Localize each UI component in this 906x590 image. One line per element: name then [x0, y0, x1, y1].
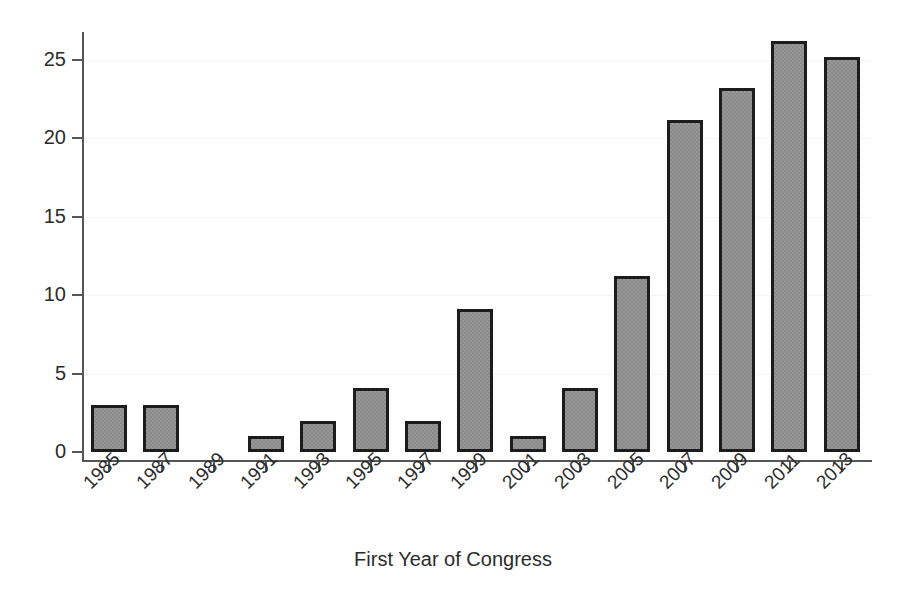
bar[interactable] [143, 405, 179, 452]
bar-slot [345, 60, 397, 452]
y-axis-tick [72, 137, 83, 139]
y-axis-tick [72, 59, 83, 61]
bar[interactable] [719, 88, 755, 452]
y-axis-tick-label-wrap: 5 [18, 363, 66, 383]
y-axis-tick [72, 451, 83, 453]
bars-layer [83, 60, 868, 452]
bar-slot [397, 60, 449, 452]
bar-slot [240, 60, 292, 452]
y-axis-tick-label: 5 [26, 363, 66, 383]
bar[interactable] [405, 421, 441, 452]
x-axis-tick-label: 1991 [236, 448, 281, 493]
bar-slot [711, 60, 763, 452]
y-axis-tick [72, 216, 83, 218]
y-axis-tick [72, 294, 83, 296]
x-axis-tick-label: 2011 [760, 449, 804, 493]
bar-slot [816, 60, 868, 452]
bar[interactable] [562, 388, 598, 452]
bar-chart: 0510152025 19851987198919911993199519971… [0, 0, 906, 590]
x-axis-tick-label: 2001 [498, 448, 543, 493]
bar[interactable] [771, 41, 807, 452]
x-axis-tick-label: 2013 [812, 448, 857, 493]
bar-slot [659, 60, 711, 452]
bar[interactable] [353, 388, 389, 452]
y-axis-tick-label-wrap: 10 [18, 284, 66, 304]
x-axis-tick-label: 1985 [79, 448, 124, 493]
bar[interactable] [667, 120, 703, 452]
bar-slot [554, 60, 606, 452]
x-axis-tick-label: 2007 [655, 448, 700, 493]
y-axis-line [82, 32, 84, 460]
bar-slot [83, 60, 135, 452]
x-axis-tick-label: 2009 [707, 448, 752, 493]
bar-slot [292, 60, 344, 452]
bar-slot [763, 60, 815, 452]
y-axis-tick [72, 373, 83, 375]
bar[interactable] [457, 309, 493, 452]
y-axis-tick-label: 25 [26, 49, 66, 69]
x-axis-tick-label: 2003 [550, 448, 595, 493]
y-axis-tick-label-wrap: 0 [18, 441, 66, 461]
bar-slot [135, 60, 187, 452]
y-axis-tick-label: 15 [26, 206, 66, 226]
y-axis-tick-label-wrap: 15 [18, 206, 66, 226]
y-axis-tick-label: 0 [26, 441, 66, 461]
bar-slot [449, 60, 501, 452]
bar[interactable] [824, 57, 860, 452]
bar-slot [502, 60, 554, 452]
y-axis-tick-label-wrap: 25 [18, 49, 66, 69]
x-axis-tick-label: 1987 [132, 448, 177, 493]
bar-slot [606, 60, 658, 452]
x-axis-tick-label: 1997 [393, 448, 438, 493]
x-axis-tick-label: 1995 [341, 448, 386, 493]
x-axis-title: First Year of Congress [0, 548, 906, 571]
plot-area [83, 60, 868, 452]
bar[interactable] [91, 405, 127, 452]
y-axis-tick-label: 20 [26, 127, 66, 147]
x-axis-tick-label: 1989 [184, 448, 229, 493]
x-axis-tick-label: 1993 [289, 448, 334, 493]
bar[interactable] [614, 276, 650, 452]
bar-slot [188, 60, 240, 452]
y-axis-tick-label: 10 [26, 284, 66, 304]
x-axis-tick-label: 2005 [603, 448, 648, 493]
y-axis-tick-label-wrap: 20 [18, 127, 66, 147]
x-axis-tick-label: 1999 [446, 448, 491, 493]
